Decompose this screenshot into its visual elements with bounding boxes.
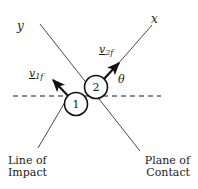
v1f-label: v1f xyxy=(29,68,43,82)
collision-diagram: 1 2 y x v1f v2f θ Line of Impact Plane o… xyxy=(0,0,198,189)
body-1-label: 1 xyxy=(69,98,83,111)
line-of-impact-caption: Line of Impact xyxy=(8,155,47,180)
line-of-impact-caption-line2: Impact xyxy=(8,167,47,179)
v2f-label: v2f xyxy=(99,44,113,58)
body-2-label: 2 xyxy=(89,81,103,94)
theta-angle-label: θ xyxy=(118,74,125,86)
x-axis-label: x xyxy=(151,13,158,26)
plane-of-contact-caption: Plane of Contact xyxy=(145,155,190,180)
plane-of-contact-caption-line2: Contact xyxy=(145,167,190,179)
y-axis-line xyxy=(38,97,68,148)
v2f-subscript: 2f xyxy=(105,48,113,57)
v1f-subscript: 1f xyxy=(35,72,43,81)
y-axis-label: y xyxy=(17,20,24,33)
